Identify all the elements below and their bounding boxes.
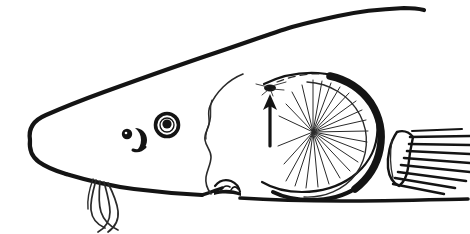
- nostril-dot-highlight: [125, 132, 128, 135]
- figure-root: Fish head lateral profile line drawing: [0, 0, 470, 234]
- fin-ray: [410, 136, 470, 137]
- fish-head-illustration: [0, 0, 470, 234]
- nostril-dot: [122, 129, 132, 139]
- eye-pupil: [162, 119, 171, 128]
- fin-ray: [409, 144, 470, 145]
